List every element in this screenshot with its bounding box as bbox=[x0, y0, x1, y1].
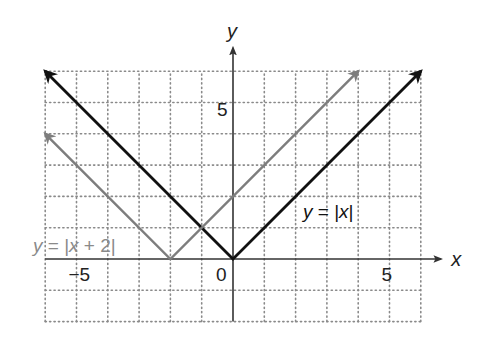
x-tick-label: 5 bbox=[382, 264, 393, 285]
label-abs-x: y = |x| bbox=[301, 201, 354, 222]
label-abs-x-plus-2: y = |x + 2| bbox=[31, 235, 116, 256]
y-tick-label: 5 bbox=[217, 99, 228, 120]
x-tick-label: 0 bbox=[216, 264, 227, 285]
x-axis-label: x bbox=[450, 248, 462, 270]
y-axis-label: y bbox=[225, 20, 238, 42]
graph: xy−5055y = |x|y = |x + 2| bbox=[0, 0, 481, 347]
line-abs-x-plus-2 bbox=[45, 71, 358, 259]
x-tick-label: −5 bbox=[69, 264, 91, 285]
